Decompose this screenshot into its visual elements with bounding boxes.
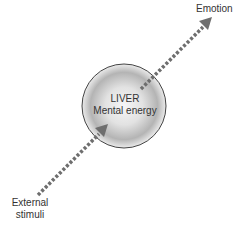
center-node-title: LIVER (84, 93, 166, 105)
input-label-line1: External (10, 197, 50, 209)
output-arrow (141, 17, 212, 89)
input-label: External stimuli (10, 197, 50, 221)
output-label: Emotion (196, 3, 233, 15)
center-node-label: LIVER Mental energy (84, 93, 166, 117)
input-label-line2: stimuli (10, 209, 50, 221)
center-node-subtitle: Mental energy (84, 105, 166, 117)
